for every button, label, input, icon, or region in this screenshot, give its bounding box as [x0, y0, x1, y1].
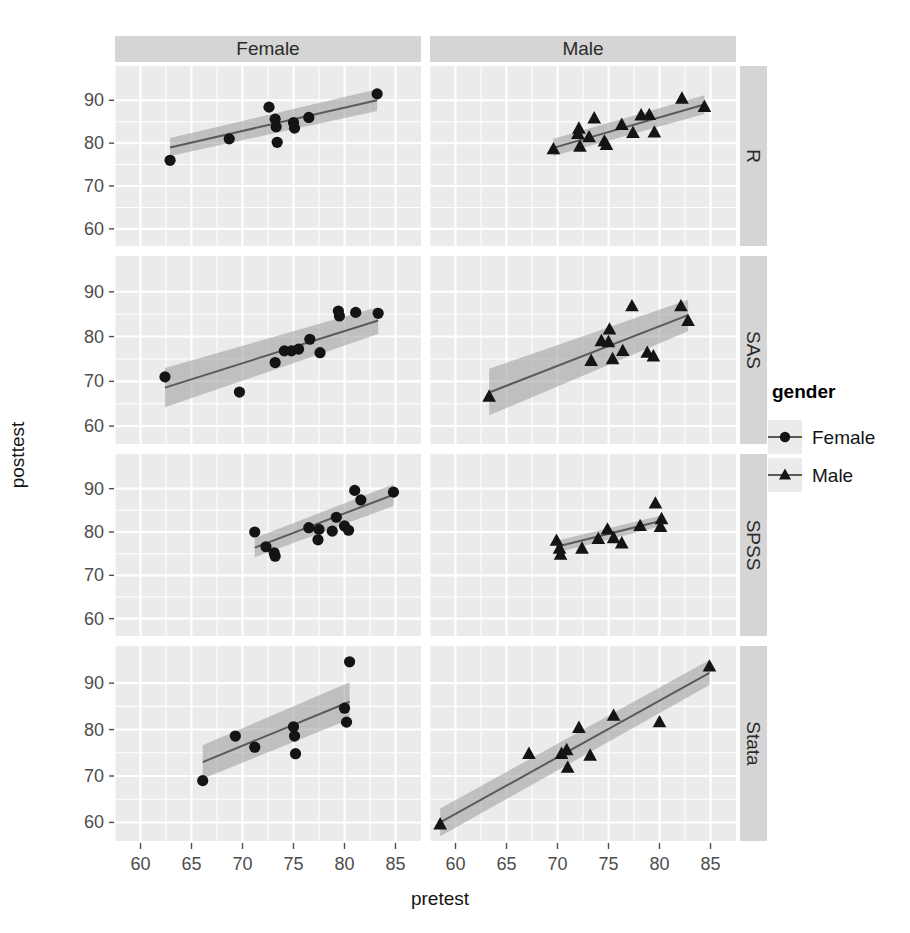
- data-point: [334, 310, 345, 321]
- data-point: [234, 386, 245, 397]
- data-point: [290, 748, 301, 759]
- row-strip-stata: Stata: [743, 721, 764, 766]
- x-tick-label: 85: [700, 854, 720, 874]
- y-tick-label: 80: [84, 133, 104, 153]
- data-point: [159, 371, 170, 382]
- scatter-plot-svg: FemaleMale RSASSPSSStata 607080906070809…: [0, 0, 910, 933]
- y-tick-label: 90: [84, 90, 104, 110]
- x-tick-label: 65: [496, 854, 516, 874]
- data-point: [349, 485, 360, 496]
- y-tick-label: 60: [84, 219, 104, 239]
- y-tick-label: 90: [84, 673, 104, 693]
- x-tick-label: 70: [232, 854, 252, 874]
- data-point: [272, 137, 283, 148]
- x-tick-label: 65: [181, 854, 201, 874]
- row-strip-spss: SPSS: [743, 520, 764, 571]
- data-point: [344, 656, 355, 667]
- data-point: [388, 487, 399, 498]
- data-point: [270, 357, 281, 368]
- data-point: [289, 730, 300, 741]
- data-point: [289, 123, 300, 134]
- data-point: [303, 112, 314, 123]
- data-point: [350, 307, 361, 318]
- data-point: [327, 526, 338, 537]
- column-strip-female: Female: [236, 38, 299, 59]
- data-point: [224, 133, 235, 144]
- figure-root: FemaleMale RSASSPSSStata 607080906070809…: [0, 0, 910, 933]
- data-point: [303, 522, 314, 533]
- data-point: [249, 742, 260, 753]
- column-strip-male: Male: [562, 38, 603, 59]
- x-tick-label: 80: [649, 854, 669, 874]
- y-tick-label: 80: [84, 720, 104, 740]
- data-point: [270, 551, 281, 562]
- y-tick-label: 70: [84, 176, 104, 196]
- data-point: [372, 88, 383, 99]
- y-tick-label: 70: [84, 371, 104, 391]
- data-point: [271, 121, 282, 132]
- x-tick-label: 80: [334, 854, 354, 874]
- data-point: [341, 717, 352, 728]
- x-tick-label: 75: [598, 854, 618, 874]
- x-tick-label: 70: [547, 854, 567, 874]
- data-point: [314, 347, 325, 358]
- y-tick-label: 80: [84, 522, 104, 542]
- data-point: [304, 334, 315, 345]
- y-axis-title: posttest: [7, 421, 28, 488]
- data-point: [249, 526, 260, 537]
- y-tick-label: 90: [84, 282, 104, 302]
- data-point: [197, 775, 208, 786]
- data-point: [343, 525, 354, 536]
- row-strip-sas: SAS: [743, 331, 764, 369]
- data-point: [331, 512, 342, 523]
- x-tick-label: 60: [445, 854, 465, 874]
- data-point: [164, 155, 175, 166]
- y-tick-label: 60: [84, 609, 104, 629]
- circle-marker-icon: [780, 432, 790, 442]
- data-point: [293, 344, 304, 355]
- data-point: [313, 524, 324, 535]
- y-tick-label: 70: [84, 565, 104, 585]
- legend-label: Female: [812, 427, 875, 448]
- y-tick-label: 80: [84, 327, 104, 347]
- data-point: [230, 730, 241, 741]
- data-point: [263, 102, 274, 113]
- x-tick-label: 85: [385, 854, 405, 874]
- panel-r-male: [430, 66, 736, 250]
- x-tick-label: 60: [130, 854, 150, 874]
- y-tick-label: 90: [84, 479, 104, 499]
- data-point: [355, 494, 366, 505]
- row-strip-r: R: [743, 149, 764, 163]
- x-tick-label: 75: [283, 854, 303, 874]
- y-tick-label: 60: [84, 812, 104, 832]
- data-point: [339, 703, 350, 714]
- y-tick-label: 70: [84, 766, 104, 786]
- x-axis-title: pretest: [411, 888, 470, 909]
- legend-label: Male: [812, 465, 853, 486]
- data-point: [373, 308, 384, 319]
- y-tick-label: 60: [84, 416, 104, 436]
- data-point: [312, 534, 323, 545]
- legend-title: gender: [772, 381, 836, 402]
